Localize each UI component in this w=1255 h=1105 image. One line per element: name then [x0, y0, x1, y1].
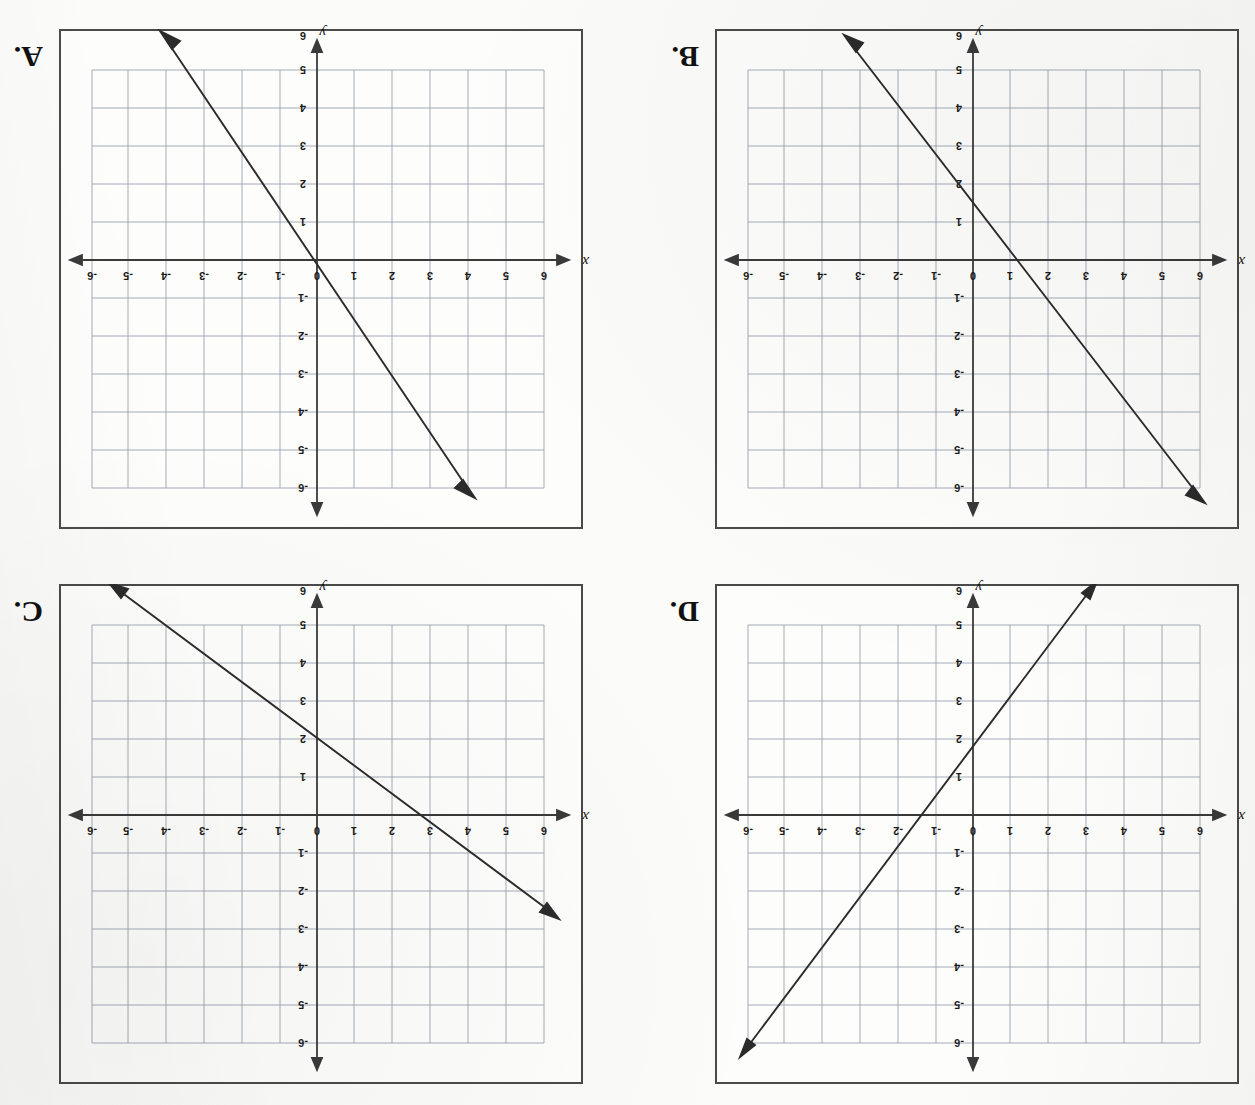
svg-text:6: 6: [541, 825, 547, 837]
svg-text:-4: -4: [160, 825, 171, 837]
svg-text:0: 0: [314, 270, 320, 282]
svg-text:-3: -3: [298, 923, 308, 935]
svg-text:5: 5: [956, 64, 962, 76]
panel-a-plot: 654 321 0-1-2 -3-4-5 -6 -6-5-4 -3-2-1 12…: [59, 29, 583, 529]
svg-text:-6: -6: [743, 825, 753, 837]
svg-text:5: 5: [300, 619, 306, 631]
svg-text:4: 4: [955, 102, 962, 114]
svg-text:-4: -4: [816, 825, 827, 837]
panel-b-letter: B.: [671, 40, 699, 74]
svg-text:-2: -2: [893, 825, 903, 837]
svg-text:4: 4: [1120, 270, 1127, 282]
svg-text:4: 4: [299, 102, 306, 114]
panel-b-plot: 654 321 0-1-2 -3-4-5 -6 -6-5-4 -3-2-1 12…: [715, 29, 1239, 529]
svg-text:-4: -4: [160, 270, 171, 282]
svg-text:2: 2: [389, 825, 395, 837]
svg-text:-5: -5: [954, 999, 964, 1011]
svg-text:-2: -2: [954, 885, 964, 897]
svg-text:5: 5: [300, 64, 306, 76]
svg-text:-4: -4: [816, 270, 827, 282]
svg-text:-2: -2: [237, 270, 247, 282]
panel-d-x-axis-label: x: [1238, 808, 1245, 825]
svg-text:-5: -5: [298, 999, 308, 1011]
svg-text:-6: -6: [87, 270, 97, 282]
panel-b-y-axis-label: y: [975, 24, 982, 41]
panel-c-x-axis-label: x: [582, 808, 589, 825]
svg-text:-1: -1: [298, 292, 308, 304]
svg-text:-5: -5: [954, 444, 964, 456]
svg-text:1: 1: [1007, 270, 1013, 282]
svg-text:-6: -6: [954, 482, 964, 494]
line-c: [109, 584, 559, 919]
svg-text:1: 1: [300, 216, 306, 228]
svg-text:6: 6: [956, 585, 962, 597]
panel-d-y-axis-label: y: [975, 579, 982, 596]
panel-d-plot: 654 321 0-1-2 -3-4-5 -6 -6-5-4 -3-2-1 12…: [715, 584, 1239, 1084]
panel-a-y-axis-label: y: [319, 24, 326, 41]
svg-text:3: 3: [300, 140, 306, 152]
svg-text:0: 0: [970, 825, 976, 837]
svg-text:-1: -1: [275, 825, 285, 837]
svg-text:2: 2: [300, 178, 306, 190]
svg-text:-2: -2: [954, 330, 964, 342]
svg-text:2: 2: [1045, 825, 1051, 837]
line-d: [740, 584, 1097, 1057]
svg-text:2: 2: [300, 733, 306, 745]
svg-text:0: 0: [970, 270, 976, 282]
svg-text:1: 1: [1007, 825, 1013, 837]
panel-c-plot: 654 321 0-1-2 -3-4-5 -6 -6-5-4 -3-2-1 12…: [59, 584, 583, 1084]
panel-c-y-axis-label: y: [319, 579, 326, 596]
panel-c-letter: C.: [14, 595, 43, 629]
svg-text:3: 3: [1083, 825, 1089, 837]
svg-text:6: 6: [300, 30, 306, 42]
svg-text:6: 6: [541, 270, 547, 282]
svg-text:5: 5: [503, 270, 509, 282]
svg-text:-2: -2: [893, 270, 903, 282]
svg-text:5: 5: [1159, 825, 1165, 837]
svg-text:4: 4: [464, 825, 471, 837]
svg-text:3: 3: [300, 695, 306, 707]
svg-text:3: 3: [427, 825, 433, 837]
svg-text:-4: -4: [297, 406, 308, 418]
panel-a-letter: A.: [14, 40, 43, 74]
svg-text:1: 1: [351, 270, 357, 282]
svg-text:5: 5: [956, 619, 962, 631]
svg-text:-1: -1: [954, 847, 964, 859]
panel-a-x-axis-label: x: [582, 253, 589, 270]
svg-text:-2: -2: [298, 330, 308, 342]
svg-text:-2: -2: [298, 885, 308, 897]
svg-text:-6: -6: [743, 270, 753, 282]
svg-text:-3: -3: [855, 270, 865, 282]
panel-a: A.: [0, 9, 583, 529]
svg-text:-1: -1: [931, 825, 941, 837]
svg-text:-6: -6: [954, 1037, 964, 1049]
svg-text:-2: -2: [237, 825, 247, 837]
svg-text:4: 4: [464, 270, 471, 282]
svg-text:1: 1: [956, 771, 962, 783]
panel-d: D.: [639, 564, 1239, 1084]
svg-text:6: 6: [956, 30, 962, 42]
svg-text:-6: -6: [87, 825, 97, 837]
svg-text:2: 2: [389, 270, 395, 282]
svg-text:5: 5: [1159, 270, 1165, 282]
svg-text:-6: -6: [298, 482, 308, 494]
svg-text:-3: -3: [199, 270, 209, 282]
svg-text:-1: -1: [275, 270, 285, 282]
svg-text:-6: -6: [298, 1037, 308, 1049]
svg-text:-5: -5: [779, 825, 789, 837]
svg-text:1: 1: [351, 825, 357, 837]
svg-text:-3: -3: [298, 368, 308, 380]
svg-text:-1: -1: [298, 847, 308, 859]
svg-text:-5: -5: [298, 444, 308, 456]
svg-text:5: 5: [503, 825, 509, 837]
svg-text:-3: -3: [954, 368, 964, 380]
svg-text:-4: -4: [953, 406, 964, 418]
svg-text:4: 4: [955, 657, 962, 669]
svg-text:3: 3: [956, 695, 962, 707]
svg-text:1: 1: [956, 216, 962, 228]
panel-b: B.: [639, 9, 1239, 529]
svg-text:2: 2: [1045, 270, 1051, 282]
svg-text:6: 6: [1197, 825, 1203, 837]
svg-text:0: 0: [314, 825, 320, 837]
svg-text:-1: -1: [954, 292, 964, 304]
